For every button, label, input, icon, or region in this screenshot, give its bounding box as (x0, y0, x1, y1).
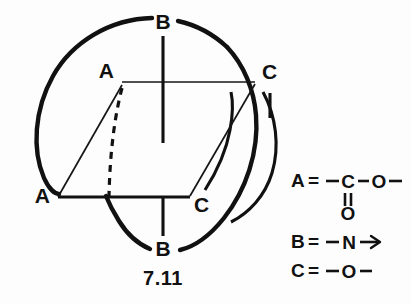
legend-equals-c: = (308, 260, 319, 281)
vertex-label-top-a: A (99, 59, 114, 82)
legend-c-atom-oxygen: O (342, 261, 357, 282)
vertex-label-left-a: A (35, 184, 50, 207)
legend-a-atom-carbon: C (341, 171, 355, 192)
legend-a-atom-oxygen-carbonyl: O (341, 203, 356, 224)
legend-key-a: A (291, 170, 305, 191)
legend-equals-b: = (308, 231, 319, 252)
vertex-label-bottom-c: C (194, 193, 209, 216)
vertex-label-top-b: B (155, 10, 170, 33)
legend-b-atom-nitrogen: N (342, 232, 356, 253)
inner-bridge-arc-lower (205, 92, 232, 190)
outer-macrocycle-arc-left (37, 18, 152, 194)
legend-a-atom-oxygen-ester: O (372, 171, 387, 192)
figure-caption: 7.11 (143, 267, 183, 289)
outer-macrocycle-arc-bottom-left (106, 196, 150, 249)
figure-page: B B A A C C 7.11 A = C O O B = N (0, 0, 411, 304)
legend-equals-a: = (308, 170, 319, 191)
vertex-label-top-c: C (262, 60, 277, 83)
outer-macrocycle-arc-top-right (178, 21, 227, 47)
chemical-structure-figure: B B A A C C 7.11 A = C O O B = N (0, 0, 411, 304)
legend-key-b: B (291, 231, 305, 252)
vertex-label-bottom-b: B (155, 237, 170, 260)
legend-key-c: C (291, 260, 305, 281)
